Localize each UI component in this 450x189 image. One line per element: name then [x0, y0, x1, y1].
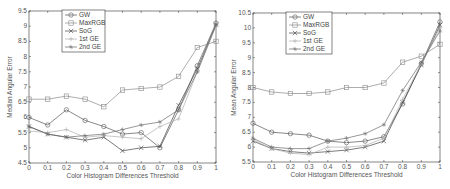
y-tick-label: 7.5: [242, 98, 251, 105]
legend: GWMaxRGBSoG1st GE2nd GE: [62, 10, 105, 52]
x-tick-label: 0.1: [43, 164, 52, 171]
y-tick-label: 7: [23, 83, 27, 90]
legend-entry: MaxRGB: [303, 21, 329, 28]
y-tick-label: 6.5: [18, 98, 27, 105]
y-tick-label: 5: [23, 144, 27, 151]
x-tick-label: 0.7: [379, 163, 388, 170]
x-tick-label: 0: [27, 164, 31, 171]
chart-median-angular-error: 00.10.20.30.40.50.60.70.80.914.555.566.5…: [6, 7, 218, 180]
x-tick-label: 0.4: [99, 164, 108, 171]
x-tick-label: 0.5: [342, 163, 351, 170]
x-tick-label: 0.6: [137, 164, 146, 171]
legend-entry: 1st GE: [79, 35, 100, 42]
legend-entry: 2nd GE: [79, 43, 102, 50]
x-tick-label: 0.1: [267, 163, 276, 170]
y-tick-label: 9: [247, 54, 251, 61]
legend-entry: 2nd GE: [303, 45, 326, 52]
y-tick-label: 5.5: [242, 158, 251, 165]
legend-entry: SoG: [303, 29, 316, 36]
x-tick-label: 0.7: [155, 164, 164, 171]
chart-mean-angular-error: 00.10.20.30.40.50.60.70.80.915.566.577.5…: [230, 9, 442, 179]
x-tick-label: 0.9: [417, 163, 426, 170]
y-axis-label: Median Angular Error: [6, 55, 14, 117]
y-tick-label: 8: [23, 53, 27, 60]
legend-entry: GW: [303, 13, 315, 20]
y-axis-label: Mean Angular Error: [230, 58, 238, 115]
y-tick-label: 4.5: [18, 159, 27, 166]
x-tick-label: 0.2: [62, 164, 71, 171]
y-tick-label: 8.5: [242, 69, 251, 76]
x-axis-label: Color Histogram Differences Threshold: [66, 172, 178, 180]
x-tick-label: 0.9: [193, 164, 202, 171]
legend-entry: GW: [79, 11, 91, 18]
y-tick-label: 6.5: [242, 128, 251, 135]
x-tick-label: 0.4: [323, 163, 332, 170]
y-tick-label: 7: [247, 113, 251, 120]
y-tick-label: 9: [23, 22, 27, 29]
legend: GWMaxRGBSoG1st GE2nd GE: [286, 12, 332, 54]
y-tick-label: 7.5: [18, 68, 27, 75]
y-tick-label: 9.5: [242, 39, 251, 46]
figure: 00.10.20.30.40.50.60.70.80.914.555.566.5…: [0, 0, 450, 189]
y-tick-label: 10: [244, 24, 252, 31]
y-tick-label: 10.5: [238, 9, 251, 16]
x-tick-label: 0.8: [398, 163, 407, 170]
y-tick-label: 8.5: [18, 37, 27, 44]
x-tick-label: 0.3: [305, 163, 314, 170]
legend-entry: MaxRGB: [79, 19, 105, 26]
x-tick-label: 1: [214, 164, 218, 171]
x-axis-label: Color Histogram Differences Threshold: [290, 171, 402, 179]
y-tick-label: 5.5: [18, 129, 27, 136]
x-tick-label: 0.3: [81, 164, 90, 171]
legend-entry: SoG: [79, 27, 92, 34]
x-tick-label: 1: [438, 163, 442, 170]
x-tick-label: 0.8: [174, 164, 183, 171]
y-tick-label: 6: [247, 143, 251, 150]
x-tick-label: 0.5: [118, 164, 127, 171]
x-tick-label: 0: [251, 163, 255, 170]
y-tick-label: 9.5: [18, 7, 27, 14]
legend-entry: 1st GE: [303, 37, 324, 44]
x-tick-label: 0.2: [286, 163, 295, 170]
x-tick-label: 0.6: [361, 163, 370, 170]
